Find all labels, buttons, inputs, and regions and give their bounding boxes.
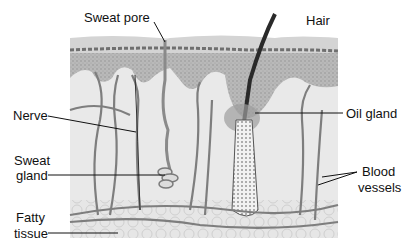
label-blood-vessels-2: vessels bbox=[358, 180, 401, 195]
label-sweat-gland-2: gland bbox=[16, 168, 48, 183]
label-sweat-gland-1: Sweat bbox=[14, 153, 50, 168]
label-fatty-tissue-1: Fatty bbox=[16, 210, 45, 225]
label-fatty-tissue-2: tissue bbox=[14, 226, 48, 241]
label-nerve: Nerve bbox=[13, 108, 48, 123]
skin-illustration bbox=[0, 0, 418, 251]
label-blood-vessels-1: Blood bbox=[362, 164, 395, 179]
label-sweat-pore: Sweat pore bbox=[84, 10, 150, 25]
label-oil-gland: Oil gland bbox=[346, 106, 397, 121]
label-hair: Hair bbox=[306, 13, 330, 28]
